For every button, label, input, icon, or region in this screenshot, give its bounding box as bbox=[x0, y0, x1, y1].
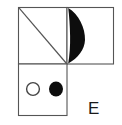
figure-canvas: E bbox=[0, 0, 122, 125]
figure-root: E bbox=[0, 0, 122, 125]
hollow-circle-icon bbox=[27, 83, 40, 96]
top-left-panel bbox=[19, 8, 68, 65]
top-right-panel bbox=[67, 8, 114, 65]
filled-circle-icon bbox=[49, 81, 63, 96]
panel-label-letter: E bbox=[88, 99, 99, 118]
bottom-left-panel bbox=[19, 64, 68, 116]
